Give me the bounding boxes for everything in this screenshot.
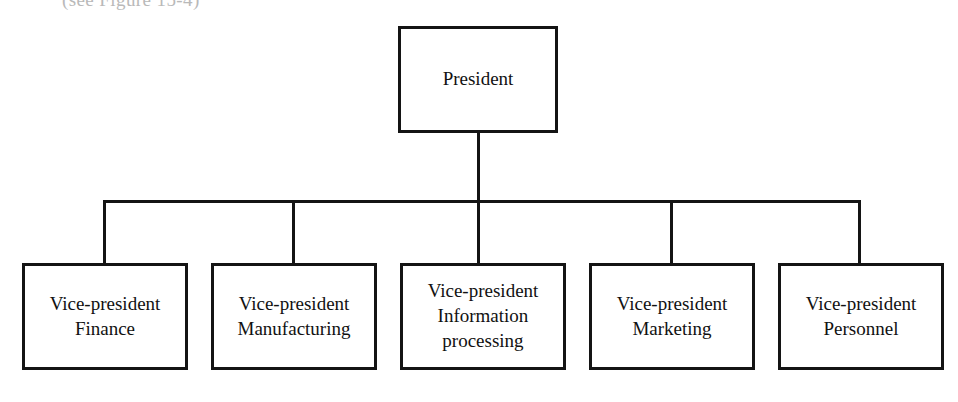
org-node-president-label: President <box>437 67 520 92</box>
connector-drop-vp-marketing <box>670 200 673 263</box>
org-node-vp-personnel: Vice-president Personnel <box>778 263 944 370</box>
org-node-vp-personnel-label: Vice-president Personnel <box>800 292 923 341</box>
org-node-vp-marketing: Vice-president Marketing <box>589 263 755 370</box>
org-node-vp-information-processing-label: Vice-president Information processing <box>422 279 545 353</box>
connector-president-stem <box>477 133 480 203</box>
connector-drop-vp-manufacturing <box>292 200 295 263</box>
org-node-vp-finance: Vice-president Finance <box>22 263 188 370</box>
org-node-vp-manufacturing: Vice-president Manufacturing <box>211 263 377 370</box>
figure-caption-fragment: (see Figure 15-4) <box>62 0 200 11</box>
connector-horizontal-bus <box>103 200 861 203</box>
org-node-president: President <box>398 26 558 133</box>
connector-drop-vp-personnel <box>858 200 861 263</box>
org-node-vp-finance-label: Vice-president Finance <box>44 292 167 341</box>
org-chart-figure: (see Figure 15-4) President Vice-preside… <box>0 0 958 402</box>
connector-drop-vp-finance <box>103 200 106 263</box>
connector-drop-vp-information-processing <box>477 200 480 263</box>
org-node-vp-marketing-label: Vice-president Marketing <box>611 292 734 341</box>
org-node-vp-manufacturing-label: Vice-president Manufacturing <box>232 292 357 341</box>
org-node-vp-information-processing: Vice-president Information processing <box>400 263 566 370</box>
